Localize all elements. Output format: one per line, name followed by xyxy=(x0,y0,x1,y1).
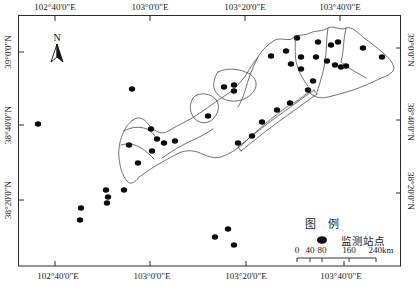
station-dot xyxy=(225,226,231,231)
region-inner-boundary xyxy=(295,36,308,86)
scalebar-label-80: 80 xyxy=(318,245,327,255)
station-dot xyxy=(360,45,366,50)
station-dot xyxy=(324,58,330,63)
scalebar-label-0: 0 xyxy=(295,245,300,255)
axis-label-bottom-1: 102°40'0"E xyxy=(37,272,78,281)
station-dot xyxy=(104,200,110,205)
station-dot xyxy=(328,42,334,47)
axis-label-right-3: 38°20'0"N xyxy=(406,172,415,210)
station-dot xyxy=(35,121,41,126)
station-dot xyxy=(274,107,280,112)
axis-label-bottom-3: 103°20'0"E xyxy=(225,272,266,281)
station-dot xyxy=(298,66,304,71)
region-inner-boundary xyxy=(190,94,218,123)
station-dot xyxy=(105,194,111,199)
station-dot xyxy=(77,217,83,222)
river-strip-boundary xyxy=(314,90,317,94)
station-dot xyxy=(205,113,211,118)
axis-label-top-1: 102°40'0"E xyxy=(34,3,75,12)
station-dot xyxy=(268,53,274,58)
station-dot xyxy=(249,133,255,138)
station-dot xyxy=(78,205,84,210)
scalebar-label-40: 40 xyxy=(306,245,315,255)
axis-label-left-1: 39°0'0"N xyxy=(4,35,13,68)
axis-label-top-3: 103°20'0"E xyxy=(224,3,265,12)
river-strip-boundary xyxy=(238,90,314,147)
station-dot xyxy=(126,142,132,147)
map-frame xyxy=(19,16,401,267)
north-arrow-label: N xyxy=(53,32,60,43)
region-inner-boundary xyxy=(341,28,366,78)
station-dot xyxy=(103,187,109,192)
region-inner-boundary xyxy=(162,129,213,158)
station-dot xyxy=(221,84,227,89)
river-strip-boundary xyxy=(238,147,241,151)
scalebar-label-160: 160 xyxy=(342,245,356,255)
scalebar-label-240: 240km xyxy=(368,245,393,255)
station-dot xyxy=(259,119,265,124)
station-dot xyxy=(231,88,237,93)
axis-label-top-4: 103°40'0"E xyxy=(319,3,360,12)
station-dot xyxy=(135,160,141,165)
graticule-ticks xyxy=(19,16,401,266)
station-dot xyxy=(129,86,135,91)
station-dot xyxy=(212,234,218,239)
north-arrow-icon xyxy=(51,44,63,62)
region-outer-boundary xyxy=(119,27,394,183)
station-dot xyxy=(149,148,155,153)
station-dot xyxy=(288,61,294,66)
station-dot xyxy=(313,54,319,59)
station-dot xyxy=(231,82,237,87)
legend-title: 图 例 xyxy=(305,215,339,231)
axis-label-left-2: 38°40'0"N xyxy=(4,106,13,144)
axis-label-right-2: 38°40'0"N xyxy=(406,103,415,141)
station-dot xyxy=(121,187,127,192)
map-figure: 102°40'0"E 103°0'0"E 103°20'0"E 103°40'0… xyxy=(0,0,420,293)
station-dot xyxy=(343,63,349,68)
station-dot xyxy=(298,54,304,59)
station-dot xyxy=(332,62,338,67)
axis-label-bottom-2: 103°0'0"E xyxy=(134,272,171,281)
region-inner-boundary xyxy=(238,57,258,107)
axis-label-right-1: 39°0'0"N xyxy=(406,33,415,66)
station-dot xyxy=(379,54,385,59)
station-dot xyxy=(315,39,321,44)
station-dot xyxy=(235,140,241,145)
station-dot xyxy=(305,87,311,92)
axis-label-top-2: 103°0'0"E xyxy=(132,3,169,12)
map-canvas xyxy=(0,0,420,293)
station-dot xyxy=(335,39,341,44)
station-dot xyxy=(154,136,160,141)
scalebar-icon xyxy=(297,258,376,262)
station-dot xyxy=(172,138,178,143)
station-dot xyxy=(287,100,293,105)
axis-label-bottom-4: 103°40'0"E xyxy=(320,272,361,281)
axis-label-left-3: 38°20'0"N xyxy=(4,181,13,219)
station-dot xyxy=(294,35,300,40)
station-dot xyxy=(148,126,154,131)
station-dot xyxy=(283,48,289,53)
station-dot xyxy=(310,78,316,83)
station-dot xyxy=(231,242,237,247)
legend-station-symbol xyxy=(317,236,327,244)
station-dot xyxy=(161,140,167,145)
river-strip-boundary xyxy=(241,94,317,151)
